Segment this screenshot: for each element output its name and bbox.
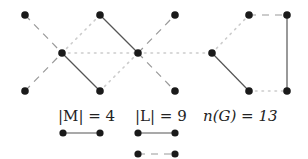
graph-node	[96, 11, 104, 19]
graph-diagram	[0, 0, 308, 159]
graph-node	[96, 87, 104, 95]
graph-order-label: n(G) = 13	[203, 107, 278, 125]
legend-linear-forest-sample	[134, 129, 178, 157]
graph-node	[208, 49, 216, 57]
edge-dashed	[138, 15, 175, 53]
edge-dashed	[25, 15, 62, 53]
edge-dotted	[62, 15, 100, 53]
graph-node	[283, 87, 291, 95]
graph-node	[21, 11, 29, 19]
edge-dashed	[138, 53, 175, 91]
linear-forest-size-label: |L| = 9	[135, 107, 187, 125]
graph-node	[171, 11, 179, 19]
edge-dotted	[100, 53, 138, 91]
edge-dotted	[212, 15, 249, 53]
edge-solid	[62, 53, 100, 91]
graph-node	[171, 87, 179, 95]
edge-solid	[212, 53, 249, 91]
graph-node	[245, 87, 253, 95]
legend-matching-sample	[59, 129, 103, 136]
edge-dashed	[25, 53, 62, 91]
graph-nodes	[21, 11, 291, 95]
edge-solid	[100, 15, 138, 53]
graph-node	[134, 49, 142, 57]
graph-node	[58, 49, 66, 57]
graph-node	[21, 87, 29, 95]
matching-size-label: |M| = 4	[58, 107, 115, 125]
graph-node	[245, 11, 253, 19]
graph-node	[283, 11, 291, 19]
